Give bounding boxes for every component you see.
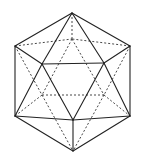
visible-edge-LL-B (15, 116, 73, 151)
hidden-edge-K3-LR (104, 95, 130, 116)
visible-edge-LR-B (73, 116, 130, 151)
visible-edge-UR-F2 (104, 46, 130, 63)
visible-edges (15, 13, 130, 151)
hidden-edge-K3-B (73, 95, 104, 151)
visible-edge-LL-F3 (15, 116, 73, 120)
hidden-edge-UR-K1 (72, 39, 130, 46)
visible-edge-T-UL (15, 13, 72, 46)
icosahedron-diagram (0, 0, 142, 162)
visible-edge-T-UR (72, 13, 130, 46)
hidden-edge-K2-LL (15, 95, 42, 116)
hidden-edge-K1-K3 (72, 39, 104, 95)
visible-edge-F2-F3 (73, 63, 104, 120)
visible-edge-F1-F2 (42, 63, 104, 64)
hidden-edge-K2-B (42, 95, 73, 151)
hidden-edge-K1-K2 (42, 39, 72, 95)
visible-edge-UL-F1 (15, 46, 42, 64)
visible-edge-LR-F3 (73, 116, 130, 120)
visible-edge-F1-F3 (42, 64, 73, 120)
visible-edge-F1-LL (15, 64, 42, 116)
visible-edge-T-F2 (72, 13, 104, 63)
visible-edge-T-F1 (42, 13, 72, 64)
hidden-edge-UL-K1 (15, 39, 72, 46)
hidden-edge-UL-K2 (15, 46, 42, 95)
